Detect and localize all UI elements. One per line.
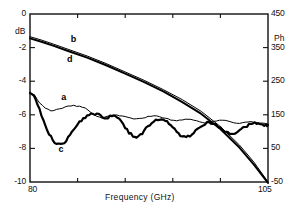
- right-tick-label: -50: [271, 176, 283, 186]
- chart-figure: 0-2-4-6-8-10 45035025015050-50 80105 bda…: [0, 0, 298, 211]
- curve-label-a: a: [61, 92, 66, 102]
- right-tick-label: 250: [271, 75, 285, 85]
- left-tick-label: -4: [0, 75, 26, 85]
- right-axis-ticks: [263, 48, 268, 149]
- series-line-d: [30, 38, 268, 182]
- left-tick-label: -10: [0, 176, 26, 186]
- x-tick-label: 105: [258, 184, 272, 194]
- left-tick-label: 0: [0, 8, 26, 18]
- x-tick-label: 80: [28, 184, 37, 194]
- curve-label-d: d: [67, 54, 73, 64]
- data-series-group: [30, 37, 268, 183]
- left-axis-unit-label: dB: [15, 26, 25, 36]
- right-axis-unit-label: Ph: [274, 33, 284, 43]
- right-tick-label: 450: [271, 8, 285, 18]
- chart-plot-area: [0, 0, 298, 211]
- right-tick-label: 350: [271, 42, 285, 52]
- x-axis-title: Frequency (GHz): [105, 192, 175, 202]
- right-tick-label: 50: [271, 142, 280, 152]
- curve-label-c: c: [58, 144, 63, 154]
- series-line-b: [30, 37, 268, 182]
- left-tick-label: -2: [0, 42, 26, 52]
- left-tick-label: -6: [0, 109, 26, 119]
- left-tick-label: -8: [0, 142, 26, 152]
- right-tick-label: 150: [271, 109, 285, 119]
- curve-label-b: b: [71, 34, 77, 44]
